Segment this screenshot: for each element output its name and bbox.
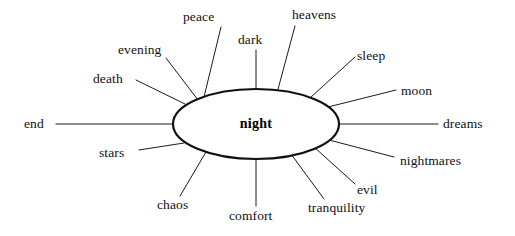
spoke-line-death	[136, 80, 185, 104]
spoke-line-nightmares	[329, 140, 394, 157]
node-label-sleep: sleep	[357, 49, 385, 63]
spoke-line-chaos	[180, 152, 206, 196]
node-label-nightmares: nightmares	[400, 154, 461, 168]
spoke-line-peace	[204, 27, 221, 97]
spoke-line-evil	[314, 147, 355, 184]
semantic-web-diagram: night peacedarkheavenseveningsleepdeathm…	[0, 0, 515, 236]
spoke-line-stars	[139, 143, 184, 150]
node-label-death: death	[93, 72, 123, 86]
node-label-evil: evil	[357, 183, 378, 197]
node-label-chaos: chaos	[157, 198, 188, 212]
node-label-moon: moon	[401, 84, 432, 98]
spoke-line-tranquility	[291, 154, 324, 199]
spoke-line-sleep	[310, 57, 355, 98]
node-label-comfort: comfort	[229, 209, 272, 223]
node-label-end: end	[24, 117, 44, 131]
node-label-evening: evening	[118, 43, 161, 57]
spoke-line-moon	[328, 90, 396, 107]
spoke-line-heavens	[277, 26, 295, 93]
central-node-label: night	[240, 117, 273, 131]
node-label-peace: peace	[183, 10, 214, 24]
spoke-line-evening	[166, 58, 198, 100]
node-label-stars: stars	[99, 146, 124, 160]
node-label-tranquility: tranquility	[308, 201, 365, 215]
node-label-heavens: heavens	[292, 8, 336, 22]
node-label-dark: dark	[238, 33, 262, 47]
node-label-dreams: dreams	[443, 117, 483, 131]
